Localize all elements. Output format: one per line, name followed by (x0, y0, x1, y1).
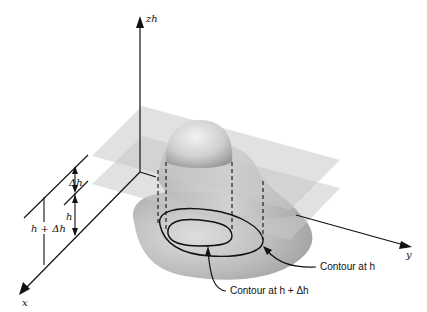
h-arrow-bottom-icon (72, 228, 78, 236)
contour-diagram: zh x y Contour at h Contour at h + Δh (0, 0, 427, 312)
z-axis-label: zh (145, 13, 158, 24)
delta-h-label: Δh (68, 177, 83, 188)
dimension-lines (24, 155, 88, 265)
h-label: h (66, 211, 72, 222)
contour-h-plus-delta-h-label: Contour at h + Δh (230, 285, 309, 296)
contour-h-label: Contour at h (320, 261, 375, 272)
x-axis-arrowhead-icon (19, 282, 30, 295)
z-axis-arrowhead-icon (136, 16, 144, 28)
y-axis-arrowhead-icon (399, 241, 412, 249)
y-axis-label: y (405, 249, 412, 260)
h-plus-delta-h-label: h + Δh (31, 223, 66, 234)
x-axis-label: x (22, 297, 28, 308)
